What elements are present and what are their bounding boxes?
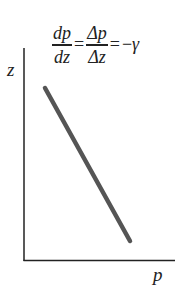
gradient-line [45,88,130,241]
plot-area [0,0,187,291]
y-axis-label: z [7,60,14,79]
x-axis-label: p [153,265,163,284]
